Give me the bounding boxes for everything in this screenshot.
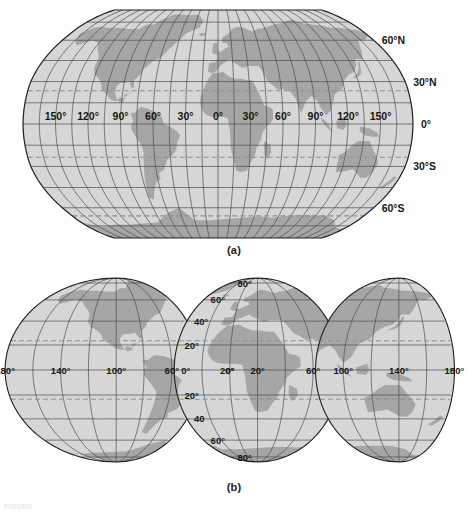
latitude-label: 30°N <box>413 76 436 88</box>
panel-b-caption: (b) <box>0 481 468 493</box>
longitude-label: 60° <box>306 365 321 376</box>
latitude-label: 40° <box>194 316 209 327</box>
interrupted-world-map: 180°140°100°60°20°0°20°60°100°140°180°80… <box>0 262 468 482</box>
latitude-label: 40 <box>194 413 205 424</box>
longitude-label: 60° <box>275 110 291 122</box>
longitude-label: 60° <box>165 365 180 376</box>
latitude-label: 60° <box>211 435 226 446</box>
latitude-label: 80° <box>237 278 252 289</box>
longitude-label: 30° <box>243 110 259 122</box>
figure-container: 150°120°90°60°30°0°30°60°90°120°150°60°N… <box>0 0 468 513</box>
landmass <box>178 294 186 297</box>
latitude-label: 20° <box>184 340 199 351</box>
longitude-label: 100° <box>333 365 353 376</box>
longitude-label: 140° <box>389 365 409 376</box>
longitude-label: 0° <box>213 110 223 122</box>
latitude-label: 60°S <box>382 202 405 214</box>
panel-a-caption: (a) <box>0 244 468 256</box>
map-panel-a: 150°120°90°60°30°0°30°60°90°120°150°60°N… <box>0 0 468 262</box>
latitude-label: 20° <box>184 390 199 401</box>
latitude-label: 0° <box>181 365 190 376</box>
map-panel-b: 180°140°100°60°20°0°20°60°100°140°180°80… <box>0 262 468 500</box>
longitude-label: 30° <box>178 110 194 122</box>
longitude-label: 90° <box>113 110 129 122</box>
longitude-label: 120° <box>77 110 99 122</box>
latitude-label: 60°N <box>382 34 405 46</box>
latitude-label: 60° <box>211 294 226 305</box>
longitude-label: 180° <box>445 365 465 376</box>
latitude-label: 0° <box>421 118 431 130</box>
longitude-label: 90° <box>308 110 324 122</box>
longitude-label: 120° <box>337 110 359 122</box>
longitude-label: 140° <box>51 365 71 376</box>
longitude-label: 180° <box>0 365 15 376</box>
longitude-label: 60° <box>145 110 161 122</box>
robinson-world-map: 150°120°90°60°30°0°30°60°90°120°150°60°N… <box>0 0 468 244</box>
longitude-label: 150° <box>45 110 67 122</box>
longitude-label: 20° <box>250 365 265 376</box>
longitude-label: 100° <box>106 365 126 376</box>
longitude-label: 150° <box>370 110 392 122</box>
figure-source-note: FIGURE <box>4 503 33 510</box>
latitude-label: 30°S <box>413 160 436 172</box>
latitude-label: 80° <box>237 452 252 463</box>
longitude-label: 0° <box>225 365 234 376</box>
